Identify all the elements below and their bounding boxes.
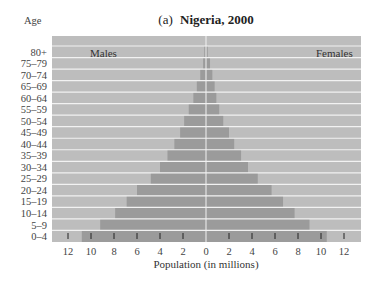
- tick-labels-group: 12108642024681012: [63, 246, 350, 257]
- age-label: 20–24: [21, 185, 48, 196]
- bar-female-55–59: [206, 104, 219, 116]
- age-label: 75–79: [21, 58, 47, 69]
- bar-female-5–9: [206, 219, 310, 231]
- bar-female-30–34: [206, 161, 248, 173]
- age-label: 35–39: [21, 150, 47, 161]
- age-label: 30–34: [21, 162, 48, 173]
- age-label: 40–44: [21, 139, 48, 150]
- bar-female-0–4: [206, 230, 327, 242]
- bar-male-15–19: [127, 196, 206, 208]
- age-label: 65–69: [21, 81, 47, 92]
- age-label: 10–14: [21, 208, 48, 219]
- bar-female-65–69: [206, 81, 215, 93]
- bar-male-55–59: [189, 104, 206, 116]
- x-tick-label: 4: [157, 246, 163, 257]
- x-tick-label: 6: [134, 246, 139, 257]
- bar-female-45–49: [206, 127, 229, 139]
- bar-male-50–54: [184, 115, 206, 127]
- bar-male-60–64: [193, 92, 206, 104]
- bar-female-40–44: [206, 138, 234, 150]
- males-label: Males: [90, 47, 117, 59]
- chart-title-text: Nigeria, 2000: [180, 12, 254, 27]
- population-pyramid-chart: Age (a) Nigeria, 2000 80+75–7970–7465–69…: [0, 0, 380, 284]
- bar-male-65–69: [197, 81, 206, 93]
- age-label: 60–64: [21, 93, 48, 104]
- bar-female-15–19: [206, 196, 283, 208]
- age-label: 25–29: [21, 173, 47, 184]
- age-label: 0–4: [31, 231, 48, 242]
- x-axis-title: Population (in millions): [153, 258, 258, 271]
- females-label: Females: [316, 47, 353, 59]
- x-tick-label: 12: [63, 246, 74, 257]
- bar-male-40–44: [174, 138, 206, 150]
- bar-female-60–64: [206, 92, 216, 104]
- bar-male-35–39: [167, 150, 206, 162]
- bar-female-35–39: [206, 150, 241, 162]
- age-label: 50–54: [21, 116, 48, 127]
- bar-female-70–74: [206, 69, 212, 81]
- age-label: 15–19: [21, 196, 47, 207]
- x-tick-label: 8: [295, 246, 300, 257]
- bar-female-50–54: [206, 115, 223, 127]
- chart-title: (a) Nigeria, 2000: [158, 12, 253, 27]
- age-label: 70–74: [21, 70, 48, 81]
- age-label: 5–9: [31, 220, 47, 231]
- bar-female-20–24: [206, 184, 272, 196]
- bar-male-20–24: [137, 184, 206, 196]
- x-tick-label: 2: [226, 246, 231, 257]
- y-axis-title: Age: [24, 15, 42, 26]
- x-tick-label: 2: [180, 246, 185, 257]
- bar-female-75–79: [206, 58, 210, 70]
- bar-male-30–34: [160, 161, 206, 173]
- bar-male-0–4: [82, 230, 206, 242]
- bar-male-45–49: [180, 127, 206, 139]
- age-label: 80+: [31, 47, 48, 58]
- x-tick-label: 10: [86, 246, 97, 257]
- x-tick-label: 10: [316, 246, 327, 257]
- age-label: 55–59: [21, 104, 47, 115]
- bar-male-70–74: [200, 69, 206, 81]
- bar-female-25–29: [206, 173, 258, 185]
- age-labels-group: 80+75–7970–7465–6960–6455–5950–5445–4940…: [21, 47, 48, 242]
- bar-male-25–29: [151, 173, 206, 185]
- bar-male-10–14: [115, 207, 206, 219]
- x-tick-label: 0: [203, 246, 208, 257]
- bar-male-5–9: [100, 219, 206, 231]
- x-tick-label: 12: [339, 246, 350, 257]
- age-label: 45–49: [21, 127, 47, 138]
- x-tick-label: 6: [272, 246, 277, 257]
- x-tick-label: 4: [249, 246, 255, 257]
- x-tick-label: 8: [111, 246, 116, 257]
- bar-female-10–14: [206, 207, 295, 219]
- chart-title-prefix: (a): [158, 12, 172, 27]
